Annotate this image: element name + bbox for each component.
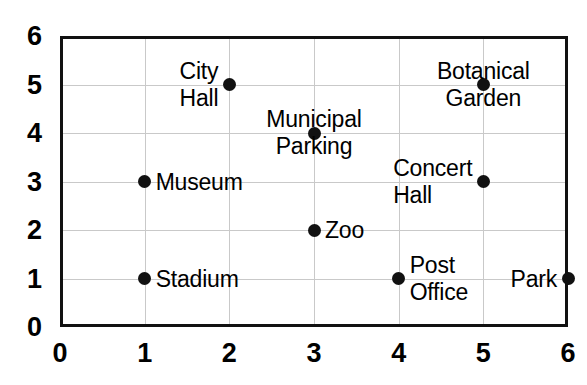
x-axis-tick-label: 0 (40, 338, 80, 368)
scatter-chart: 01234560123456 MuseumStadiumCityHallMuni… (0, 0, 587, 385)
y-axis-tick-label: 2 (8, 215, 42, 245)
y-axis-tick-label: 3 (8, 167, 42, 197)
data-point-label: PostOffice (410, 252, 468, 306)
y-axis-tick-label: 5 (8, 70, 42, 100)
data-point[interactable] (562, 272, 575, 285)
data-point[interactable] (477, 175, 490, 188)
x-axis-tick-label: 5 (463, 338, 503, 368)
y-axis-tick-label: 6 (8, 21, 42, 51)
x-axis-tick-label: 6 (548, 338, 587, 368)
y-axis-tick-label: 1 (8, 264, 42, 294)
x-axis-tick-label: 4 (379, 338, 419, 368)
data-point[interactable] (223, 78, 236, 91)
x-axis-tick-label: 1 (125, 338, 165, 368)
y-axis-tick-label: 4 (8, 118, 42, 148)
data-point[interactable] (308, 224, 321, 237)
data-point-label: CityHall (180, 58, 219, 112)
data-point-label: ConcertHall (393, 155, 472, 209)
data-point-label: Zoo (325, 217, 364, 244)
data-point-label: Museum (156, 168, 243, 195)
data-point-label: BotanicalGarden (437, 58, 530, 112)
data-point-label: Park (511, 265, 558, 292)
data-point-label: MunicipalParking (266, 106, 361, 160)
x-axis-tick-label: 3 (294, 338, 334, 368)
y-axis-tick-label: 0 (8, 312, 42, 342)
data-point-label: Stadium (156, 265, 239, 292)
x-axis-tick-label: 2 (209, 338, 249, 368)
